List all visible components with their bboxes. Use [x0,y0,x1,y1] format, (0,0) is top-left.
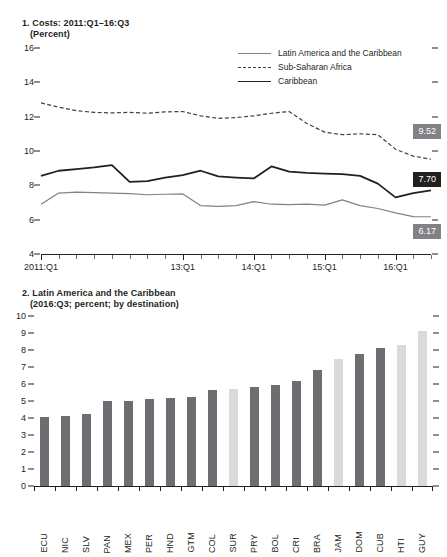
chart-2-x-tick [265,487,266,491]
chart-2-x-tick-label: PAN [103,535,112,553]
chart-1-y-tick-right [432,219,438,220]
chart-1-x-tick-label: 15:Q1 [312,262,337,272]
chart-2-x-tick-label: CUB [376,533,385,553]
chart-1-line-dashed [41,103,431,159]
chart-2-y-tick-right [433,333,439,334]
chart-2-x-tick [55,487,56,491]
chart-2-y-tick-right [433,401,439,402]
chart-2-bar [187,397,196,486]
chart-2-bar [40,417,49,486]
chart-2-subtitle: (2016:Q3; percent; by destination) [22,299,179,310]
chart-2-bar [355,354,364,486]
chart-2-lac-bar-chart: 2. Latin America and the Caribbean (2016… [0,288,447,557]
chart-2-x-tick-marks [34,487,433,491]
chart-2-x-tick [412,487,413,491]
chart-2-y-tick-label: 6 [4,380,26,389]
chart-2-y-tick-marks-right [433,316,439,486]
chart-2-x-tick-label: MEX [124,533,133,553]
chart-1-panel-number: 1. [22,18,30,28]
chart-1-x-tick [413,255,414,259]
chart-1-subtitle: (Percent) [22,29,129,40]
chart-2-bar [124,401,133,486]
chart-1-title: Costs: 2011:Q1–16:Q3 [32,18,129,28]
chart-2-y-tick-label: 4 [4,414,26,423]
chart-1-y-tick-right [432,116,438,117]
chart-1-x-tick-label: 13:Q1 [171,262,196,272]
chart-2-y-tick-right [433,384,439,385]
chart-2-x-tick [223,487,224,491]
chart-2-x-tick-label: PER [145,534,154,553]
chart-2-x-tick [181,487,182,491]
chart-2-y-tick-right [433,367,439,368]
chart-2-x-tick [328,487,329,491]
chart-2-y-tick-right [433,486,439,487]
chart-2-x-tick [349,487,350,491]
chart-1-x-tick [147,255,148,259]
chart-1-x-tick [307,255,308,259]
chart-2-x-axis-labels: ECUNICSLVPANMEXPERHNDGTMCOLSURPRYBOLCRIB… [34,493,433,553]
legend-item-sub-saharan-africa: Sub-Saharan Africa [238,60,443,74]
chart-1-x-tick [396,255,397,260]
chart-2-x-tick-label: GUY [418,533,427,553]
chart-2-x-tick [139,487,140,491]
chart-1-x-tick [360,255,361,259]
chart-2-bar [229,389,238,486]
chart-2-y-tick-label: 2 [4,448,26,457]
chart-2-x-tick [370,487,371,491]
chart-2-y-axis-labels: 012345678910 [0,316,26,486]
chart-2-bar [418,331,427,486]
chart-2-x-tick [432,487,433,491]
chart-2-x-tick [76,487,77,491]
value-label-caribbean: 7.70 [413,172,441,187]
chart-2-x-tick-label: NIC [61,537,70,553]
chart-1-x-tick [59,255,60,259]
legend-item-caribbean: Caribbean [238,74,443,88]
chart-2-y-tick-right [433,418,439,419]
chart-2-title-block: 2. Latin America and the Caribbean (2016… [22,288,179,310]
chart-2-x-tick [307,487,308,491]
chart-1-x-tick [325,255,326,260]
chart-1-y-tick-label: 8 [14,181,34,190]
chart-1-x-tick [254,255,255,260]
chart-1-x-axis-labels: 2011:Q113:Q114:Q115:Q116:Q1 [0,262,447,276]
chart-2-y-tick-right [433,469,439,470]
chart-2-y-tick-label: 9 [4,329,26,338]
chart-1-y-tick [34,151,40,152]
chart-2-panel-number: 2. [22,288,30,298]
chart-2-bar [397,345,406,486]
chart-2-x-tick [202,487,203,491]
chart-1-y-tick-right [432,151,438,152]
chart-2-bar [313,370,322,486]
chart-2-y-tick-label: 5 [4,397,26,406]
chart-1-x-tick-marks [41,255,431,261]
chart-2-y-tick-label: 3 [4,431,26,440]
chart-1-x-tick [236,255,237,259]
chart-1-x-tick-label: 2011:Q1 [24,262,58,272]
chart-2-y-tick-right [433,435,439,436]
chart-2-title: Latin America and the Caribbean [32,288,175,298]
chart-2-x-tick [118,487,119,491]
chart-1-x-tick [431,255,432,259]
chart-2-bar [208,390,217,486]
chart-1-y-tick-label: 16 [14,44,34,53]
chart-1-x-tick [378,255,379,259]
legend-label-sub-saharan-africa: Sub-Saharan Africa [278,60,352,74]
chart-2-x-tick-label: HND [166,533,175,553]
chart-2-y-tick-label: 0 [4,482,26,491]
chart-1-y-tick [34,219,40,220]
legend-label-latin-america: Latin America and the Caribbean [278,46,402,60]
chart-2-bar [82,414,91,486]
chart-2-y-tick-label: 1 [4,465,26,474]
chart-2-x-tick-label: COL [208,534,217,553]
chart-2-x-tick-label: SLV [82,536,91,553]
chart-1-x-tick [76,255,77,259]
chart-2-bar [376,348,385,486]
chart-2-bar [166,398,175,486]
chart-2-x-tick [391,487,392,491]
chart-1-y-tick-right [432,254,438,255]
chart-1-x-tick [183,255,184,260]
chart-2-x-tick-label: ECU [40,533,49,553]
chart-1-x-tick [112,255,113,259]
chart-2-x-tick-label: DOM [355,531,364,553]
chart-1-x-tick-label: 14:Q1 [241,262,266,272]
